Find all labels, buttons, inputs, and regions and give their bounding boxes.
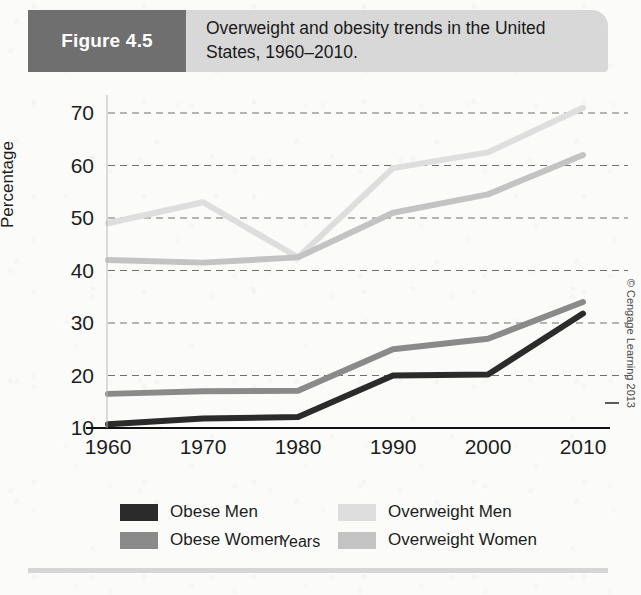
legend-swatch-icon <box>120 504 158 521</box>
copyright-notice: © Cengage Learning 2013 <box>625 279 637 408</box>
legend-item-overweight-men: Overweight Men <box>338 502 560 522</box>
legend-item-overweight-women: Overweight Women <box>338 530 560 550</box>
legend-label: Obese Men <box>170 502 258 522</box>
legend-swatch-icon <box>338 504 376 521</box>
figure-number-label: Figure 4.5 <box>61 30 153 52</box>
y-tick-label: 50 <box>71 206 94 229</box>
x-tick-labels-group: 196019701980199020002010 <box>85 435 607 458</box>
x-tick-label: 2000 <box>465 435 512 458</box>
x-tick-label: 1990 <box>370 435 417 458</box>
chart-plot-area: Percentage 10203040506070 19601970198019… <box>0 78 641 458</box>
copyright-rule <box>605 402 619 404</box>
x-tick-label: 1960 <box>85 435 132 458</box>
legend-item-obese-men: Obese Men <box>120 502 338 522</box>
figure-title: Overweight and obesity trends in the Uni… <box>206 16 594 64</box>
legend-item-obese-women: Obese Women <box>120 530 338 550</box>
x-tick-label: 2010 <box>560 435 607 458</box>
series-line <box>108 302 583 394</box>
y-tick-label: 70 <box>71 101 94 124</box>
data-series-group <box>108 108 583 425</box>
y-tick-label: 60 <box>71 154 94 177</box>
legend-swatch-icon <box>120 532 158 549</box>
y-tick-label: 30 <box>71 311 94 334</box>
chart-legend: Obese Men Overweight Men Obese Women Ove… <box>120 498 560 554</box>
y-tick-label: 20 <box>71 364 94 387</box>
figure-number-box: Figure 4.5 <box>28 10 186 72</box>
line-chart-svg: 10203040506070 196019701980199020002010 <box>0 78 641 458</box>
x-tick-label: 1980 <box>275 435 322 458</box>
x-tick-label: 1970 <box>180 435 227 458</box>
y-axis-title: Percentage <box>0 141 18 228</box>
legend-label: Obese Women <box>170 530 283 550</box>
figure-header: Figure 4.5 Overweight and obesity trends… <box>28 10 608 72</box>
legend-label: Overweight Men <box>388 502 512 522</box>
y-tick-label: 40 <box>71 259 94 282</box>
y-tick-labels-group: 10203040506070 <box>71 101 94 439</box>
bottom-divider <box>28 568 608 573</box>
legend-label: Overweight Women <box>388 530 537 550</box>
legend-swatch-icon <box>338 532 376 549</box>
